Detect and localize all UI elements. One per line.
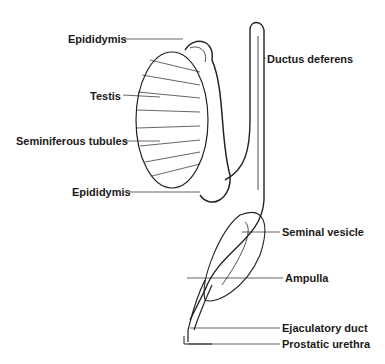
label-seminal-vesicle: Seminal vesicle [282, 226, 364, 238]
label-prostatic-urethra: Prostatic urethra [282, 338, 370, 350]
label-epididymis-top: Epididymis [68, 33, 127, 45]
anatomy-diagram: Epididymis Ductus deferens Testis Semini… [0, 0, 385, 364]
label-epididymis-bottom: Epididymis [72, 186, 131, 198]
label-testis: Testis [90, 90, 121, 102]
label-ejaculatory-duct: Ejaculatory duct [282, 322, 368, 334]
label-seminiferous-tubules: Seminiferous tubules [16, 135, 128, 147]
testis-shape [136, 52, 208, 188]
label-ductus-deferens: Ductus deferens [267, 53, 353, 65]
label-ampulla: Ampulla [285, 272, 328, 284]
